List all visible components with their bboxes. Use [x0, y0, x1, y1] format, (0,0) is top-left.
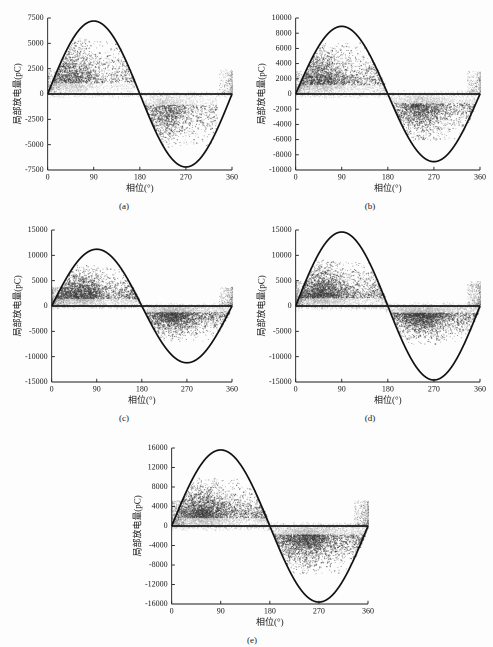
panel-b-caption: (b)	[252, 201, 488, 211]
panel-a: (a)	[8, 6, 240, 212]
panel-a-caption: (a)	[8, 201, 240, 211]
panel-e: (e)	[128, 436, 376, 646]
panel-b-plot-canvas	[252, 6, 488, 200]
panel-b: (b)	[252, 6, 488, 212]
panel-e-plot-canvas	[128, 436, 376, 634]
panel-d-plot-canvas	[252, 218, 488, 412]
panel-e-caption: (e)	[128, 635, 376, 645]
panel-c-plot-canvas	[8, 218, 240, 412]
panel-d-caption: (d)	[252, 413, 488, 423]
panel-a-plot-canvas	[8, 6, 240, 200]
panel-c-caption: (c)	[8, 413, 240, 423]
panel-c: (c)	[8, 218, 240, 424]
panel-d: (d)	[252, 218, 488, 424]
